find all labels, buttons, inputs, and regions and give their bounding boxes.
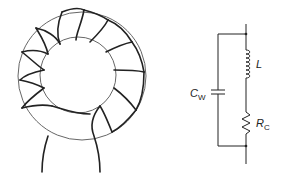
label-R-sub: C: [264, 123, 270, 132]
label-C: C: [190, 87, 198, 99]
circuit: [211, 24, 250, 164]
junction-top: [245, 33, 248, 36]
toroid-winding: [20, 9, 144, 172]
label-C-sub: W: [198, 93, 206, 102]
inductor-coil: [246, 50, 250, 78]
label-L: L: [256, 58, 262, 70]
diagram-canvas: L R C C W: [0, 0, 283, 176]
label-R: R: [256, 117, 264, 129]
junction-bottom: [245, 145, 248, 148]
resistor-zigzag: [242, 112, 250, 134]
